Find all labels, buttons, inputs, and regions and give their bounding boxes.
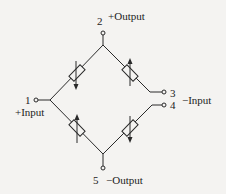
bridge-diagram: 2 +Output 1 +Input 3 4 −Input 5 −Output xyxy=(0,0,226,194)
terminal-1-label: +Input xyxy=(15,106,44,118)
resistor-body xyxy=(69,65,85,81)
bridge-circuit-svg: 2 +Output 1 +Input 3 4 −Input 5 −Output xyxy=(0,0,226,194)
arrow-down-icon xyxy=(74,84,79,90)
terminal-2 xyxy=(101,31,105,35)
terminal-4 xyxy=(162,103,166,107)
terminal-5-label: −Output xyxy=(106,174,143,186)
wire-top-right xyxy=(103,45,162,92)
terminal-1 xyxy=(34,98,38,102)
terminal-34-label: −Input xyxy=(182,94,211,106)
arrow-down-icon xyxy=(128,137,133,143)
terminal-3 xyxy=(162,90,166,94)
terminal-5 xyxy=(101,166,105,170)
wires xyxy=(38,35,162,166)
arrow-up-icon xyxy=(75,114,80,120)
resistor-upper-left xyxy=(69,65,85,81)
arrow-up-icon xyxy=(128,58,133,64)
terminal-4-number: 4 xyxy=(170,99,176,111)
terminal-3-number: 3 xyxy=(170,87,176,99)
terminal-1-number: 1 xyxy=(25,94,31,106)
terminal-2-label: +Output xyxy=(108,10,145,22)
terminal-5-number: 5 xyxy=(93,174,99,186)
terminal-2-number: 2 xyxy=(97,15,103,27)
